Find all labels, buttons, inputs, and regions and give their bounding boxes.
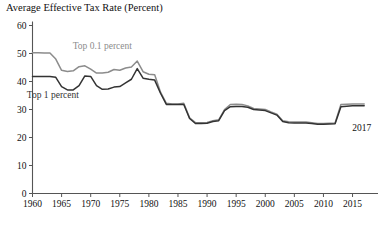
- x-tick-label: 2000: [256, 199, 275, 209]
- y-tick-label: 10: [17, 161, 27, 171]
- x-tick-label: 2015: [343, 199, 362, 209]
- y-tick-label: 30: [17, 105, 27, 115]
- x-axis: 1960196519701975198019851990199520002005…: [23, 194, 378, 209]
- chart-annotations: 2017: [352, 123, 371, 133]
- chart-figure: Average Effective Tax Rate (Percent) 010…: [0, 0, 385, 228]
- series-line: [33, 53, 365, 124]
- line-chart-plot: 0102030405060 19601965197019751980198519…: [0, 0, 385, 228]
- series-lines: [33, 53, 365, 125]
- y-axis: 0102030405060: [17, 21, 33, 199]
- series-line: [33, 69, 365, 125]
- x-tick-label: 2010: [314, 199, 333, 209]
- series-label: Top 0.1 percent: [73, 41, 133, 51]
- series-label: Top 1 percent: [27, 90, 79, 100]
- x-tick-label: 2005: [285, 199, 304, 209]
- y-tick-label: 60: [17, 21, 27, 31]
- x-tick-label: 1980: [139, 199, 158, 209]
- x-tick-label: 1985: [168, 199, 187, 209]
- series-labels: Top 0.1 percentTop 1 percent: [27, 41, 132, 100]
- y-tick-label: 50: [17, 49, 27, 59]
- y-tick-label: 20: [17, 133, 27, 143]
- x-tick-label: 1975: [110, 199, 129, 209]
- x-tick-label: 1970: [81, 199, 100, 209]
- x-tick-label: 1990: [198, 199, 217, 209]
- x-tick-label: 1995: [227, 199, 246, 209]
- x-tick-label: 1960: [23, 199, 42, 209]
- y-tick-label: 0: [22, 189, 27, 199]
- x-tick-label: 1965: [52, 199, 71, 209]
- y-tick-label: 40: [17, 77, 27, 87]
- annotation-label: 2017: [352, 123, 371, 133]
